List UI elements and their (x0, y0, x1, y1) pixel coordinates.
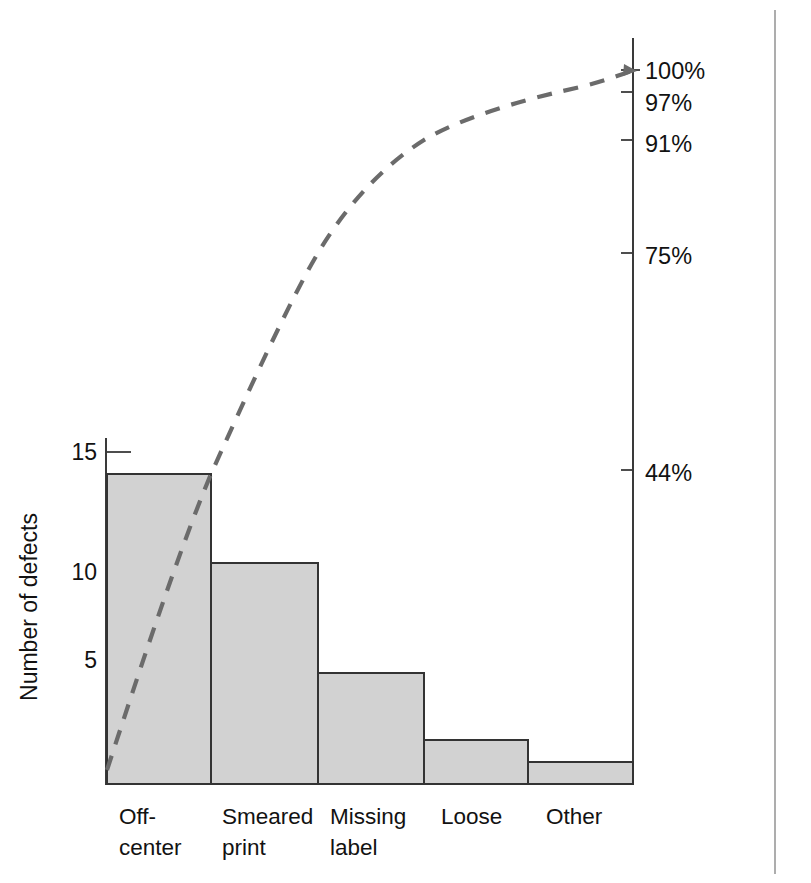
category-label-loose: Loose (441, 804, 502, 829)
bar-loose (424, 740, 528, 784)
category-label-missing-label-line2: label (330, 835, 378, 860)
category-label-off-center-line2: center (119, 835, 182, 860)
left-tick-label-5: 5 (84, 647, 97, 673)
bar-other (528, 762, 633, 784)
category-label-missing-label: Missing (330, 804, 406, 829)
bar-off-center (107, 474, 211, 784)
category-label-other: Other (546, 804, 603, 829)
pareto-chart: 15 10 5 Number of defects 100% 97% 91% 7… (0, 0, 811, 883)
right-tick-label-97: 97% (645, 90, 692, 116)
right-tick-label-44: 44% (645, 460, 692, 486)
category-label-smeared-print: Smeared (222, 804, 313, 829)
right-tick-label-75: 75% (645, 243, 692, 269)
bar-smeared-print (211, 563, 318, 784)
category-label-smeared-print-line2: print (222, 835, 267, 860)
bar-missing-label (318, 673, 424, 784)
y-axis-title: Number of defects (16, 513, 42, 701)
left-tick-label-15: 15 (71, 439, 97, 465)
left-tick-label-10: 10 (71, 559, 97, 585)
pareto-chart-page: 15 10 5 Number of defects 100% 97% 91% 7… (0, 0, 811, 883)
right-tick-label-100: 100% (645, 58, 705, 84)
right-tick-label-91: 91% (645, 131, 692, 157)
cumulative-line-arrowhead (623, 64, 637, 76)
category-label-off-center: Off- (119, 804, 156, 829)
